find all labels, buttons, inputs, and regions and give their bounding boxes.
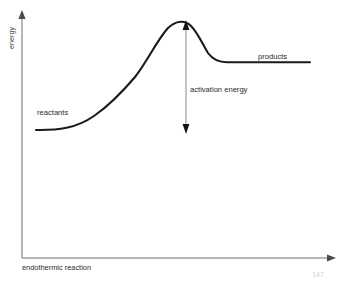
x-axis-arrowhead [327, 254, 336, 261]
x-axis [22, 254, 336, 261]
products-label: products [258, 52, 287, 61]
energy-profile-diagram: reactants products activation energy end… [0, 0, 343, 281]
y-axis [18, 10, 25, 258]
y-axis-label: energy [7, 27, 16, 49]
activation-arrow-head-down [183, 124, 190, 134]
reactants-label: reactants [37, 108, 68, 117]
x-axis-label: endothermic reaction [22, 263, 91, 272]
reaction-energy-curve [36, 22, 310, 130]
diagram-canvas: reactants products activation energy end… [0, 0, 343, 281]
y-axis-arrowhead [18, 10, 25, 19]
activation-energy-arrow [183, 20, 190, 134]
activation-energy-label: activation energy [190, 85, 248, 94]
page-number-mark: 147 [312, 271, 324, 278]
